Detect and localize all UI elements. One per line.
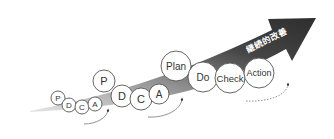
svg-text:C: C: [79, 103, 85, 112]
svg-text:P: P: [100, 75, 107, 87]
step-do-small: D: [62, 98, 76, 112]
step-action-large: Action: [244, 58, 274, 88]
curved-arrow-icon: [84, 110, 108, 124]
step-check-medium: C: [130, 88, 152, 110]
step-action-medium: A: [149, 84, 169, 104]
svg-text:A: A: [92, 100, 98, 109]
step-action-small: A: [88, 97, 102, 111]
svg-text:Check: Check: [217, 73, 244, 84]
step-do-large: Do: [188, 62, 218, 92]
svg-text:D: D: [118, 90, 126, 102]
svg-text:Action: Action: [246, 68, 271, 78]
svg-text:D: D: [66, 101, 72, 110]
step-check-large: Check: [215, 63, 245, 93]
step-do-medium: D: [111, 85, 133, 107]
svg-text:Plan: Plan: [166, 61, 186, 72]
step-check-small: C: [75, 100, 89, 114]
svg-text:Do: Do: [197, 72, 210, 83]
step-plan-large: Plan: [161, 51, 191, 81]
pdca-diagram: 継続的改善 P D C A P D: [0, 0, 334, 139]
svg-text:A: A: [156, 89, 163, 100]
svg-text:P: P: [55, 94, 60, 103]
step-plan-medium: P: [93, 70, 115, 92]
cycle-small: P D C A: [51, 91, 102, 114]
svg-text:C: C: [137, 93, 145, 105]
